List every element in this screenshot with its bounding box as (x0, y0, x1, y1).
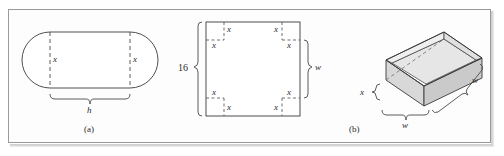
panel-b-flat-drawing (176, 12, 336, 142)
label-brace-h: h (87, 106, 92, 115)
label-right-x: x (133, 55, 137, 64)
label-corner-tl-v: x (227, 25, 231, 34)
label-height-x: x (360, 88, 364, 97)
caption-a: (a) (84, 124, 94, 134)
sheet-square (206, 22, 300, 116)
stadium-outline (22, 32, 158, 88)
label-side-16: 16 (178, 63, 188, 73)
label-corner-tr-h: x (287, 41, 291, 50)
brace-width-w (382, 110, 429, 120)
panel-a-drawing (14, 14, 164, 140)
panel-a: x x h (a) (14, 14, 164, 140)
figure-container: x x h (a) 16 w (0, 0, 504, 156)
panel-b-box: x w w (b) (348, 14, 496, 140)
label-corner-tl-h: x (212, 41, 216, 50)
brace-h (50, 94, 130, 104)
label-corner-bl-h: x (212, 88, 216, 97)
label-depth-w-box: w (472, 76, 478, 85)
brace-w (304, 40, 312, 98)
label-corner-br-h: x (287, 88, 291, 97)
page-shadow-bottom (10, 144, 494, 147)
label-corner-tr-v: x (274, 25, 278, 34)
label-corner-br-v: x (274, 103, 278, 112)
label-corner-bl-v: x (227, 103, 231, 112)
caption-b: (b) (349, 124, 360, 134)
label-width-w: w (315, 63, 321, 72)
brace-height-x (372, 84, 380, 100)
panel-b-flat: 16 w x x x x x x x x (176, 12, 336, 142)
label-width-w-box: w (402, 121, 408, 130)
label-left-x: x (53, 55, 57, 64)
brace-16 (194, 22, 202, 116)
